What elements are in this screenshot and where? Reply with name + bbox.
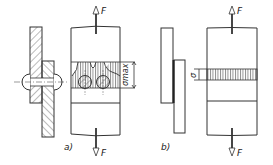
sigma-label: σ	[189, 72, 198, 78]
lap-joint-stress-diagram: F F σmax a) F F σ b)	[0, 0, 273, 165]
part-a-label: a)	[64, 142, 73, 152]
force-label: F	[237, 148, 243, 158]
bonded-plate-plan-view	[194, 6, 257, 156]
riveted-joint-section	[14, 27, 68, 137]
part-b-label: b)	[161, 142, 170, 152]
force-label: F	[101, 6, 107, 16]
bonded-joint-section	[161, 28, 185, 133]
force-label: F	[237, 6, 243, 16]
sigma-max-label: σmax	[121, 63, 130, 86]
force-label: F	[101, 148, 107, 158]
